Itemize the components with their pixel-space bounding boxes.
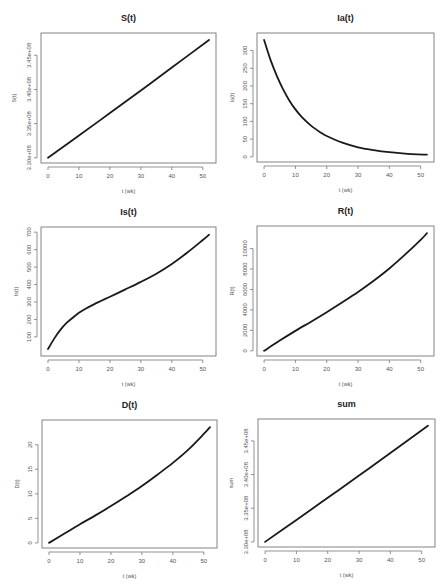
x-tick-label: 0 (46, 366, 50, 372)
x-tick-label: 50 (417, 366, 424, 372)
chart-title: Ia(t) (337, 13, 354, 23)
y-tick-label: 200 (242, 80, 248, 91)
y-axis: 3.30e+083.35e+083.40e+083.45e+08 (243, 428, 254, 555)
x-tick-label: 50 (199, 366, 206, 372)
panel-st: S(t)01020304050t (wk)3.30e+083.35e+083.4… (11, 13, 216, 194)
x-tick-label: 20 (108, 558, 115, 564)
data-line (264, 40, 427, 155)
x-tick-label: 10 (292, 366, 299, 372)
plot-frame (41, 227, 216, 356)
y-axis-label: sum (228, 477, 234, 488)
y-tick-label: 15 (27, 465, 33, 472)
x-tick-label: 10 (76, 366, 83, 372)
y-tick-label: 3.45e+08 (243, 428, 249, 454)
y-tick-label: 20 (27, 441, 33, 448)
x-tick-label: 30 (356, 557, 363, 563)
y-tick-label: 10000 (242, 240, 248, 257)
y-axis: 050100150200250300 (242, 45, 253, 159)
y-tick-label: 700 (26, 226, 32, 237)
x-tick-label: 10 (293, 557, 300, 563)
x-tick-label: 40 (170, 558, 177, 564)
x-axis: 01020304050 (262, 360, 424, 372)
figure-canvas: S(t)01020304050t (wk)3.30e+083.35e+083.4… (0, 0, 447, 587)
y-axis: 3.30e+083.35e+083.40e+083.45e+08 (26, 42, 37, 170)
x-tick-label: 10 (292, 172, 299, 178)
y-axis-label: S(t) (11, 93, 17, 102)
y-axis: 0200040006000800010000 (242, 240, 253, 353)
panel-rt: R(t)01020304050t (wk)0200040006000800010… (229, 206, 434, 387)
x-tick-label: 50 (199, 173, 206, 179)
x-tick-label: 0 (47, 558, 51, 564)
y-tick-label: 3.30e+08 (243, 529, 249, 555)
chart-title: R(t) (338, 206, 354, 216)
y-tick-label: 300 (26, 296, 32, 307)
x-tick-label: 20 (107, 366, 114, 372)
x-tick-label: 10 (77, 558, 84, 564)
x-tick-label: 30 (355, 172, 362, 178)
y-axis-label: Is(t) (13, 287, 19, 297)
y-tick-label: 200 (26, 314, 32, 325)
x-tick-label: 40 (387, 557, 394, 563)
panel-sum: sum01020304050t (wk)3.30e+083.35e+083.40… (228, 399, 435, 578)
y-tick-label: 4000 (242, 303, 248, 317)
x-axis-label: t (wk) (123, 573, 137, 579)
x-tick-label: 40 (169, 173, 176, 179)
y-tick-label: 50 (242, 135, 248, 142)
y-tick-label: 3.45e+08 (26, 42, 32, 68)
y-tick-label: 400 (26, 279, 32, 290)
x-tick-label: 30 (139, 558, 146, 564)
x-tick-label: 20 (323, 366, 330, 372)
y-tick-label: 5 (27, 516, 33, 520)
y-tick-label: 2000 (242, 323, 248, 337)
x-axis-label: t (wk) (340, 572, 354, 578)
y-tick-label: 500 (26, 261, 32, 272)
x-tick-label: 30 (355, 366, 362, 372)
y-tick-label: 0 (242, 348, 248, 352)
x-tick-label: 50 (418, 557, 425, 563)
data-line (49, 427, 210, 543)
x-axis: 01020304050 (46, 360, 206, 372)
y-tick-label: 300 (242, 45, 248, 56)
y-tick-label: 100 (242, 116, 248, 127)
y-tick-label: 3.35e+08 (26, 110, 32, 136)
x-tick-label: 30 (138, 366, 145, 372)
y-tick-label: 6000 (242, 282, 248, 296)
x-tick-label: 30 (138, 173, 145, 179)
y-axis-label: R(t) (229, 286, 235, 295)
y-axis: 100200300400500600700 (26, 226, 37, 341)
plot-frame (42, 420, 217, 548)
x-tick-label: 0 (46, 173, 50, 179)
x-tick-label: 20 (107, 173, 114, 179)
x-axis-label: t (wk) (339, 187, 353, 193)
panel-ist: Is(t)01020304050t (wk)100200300400500600… (13, 207, 216, 387)
plot-frame (257, 33, 434, 162)
panel-dt: D(t)01020304050t (wk)05101520D(t) (14, 400, 217, 579)
data-line (48, 235, 209, 349)
x-axis-label: t (wk) (339, 381, 353, 387)
x-tick-label: 20 (324, 557, 331, 563)
y-tick-label: 150 (242, 98, 248, 109)
chart-title: D(t) (122, 400, 138, 410)
x-tick-label: 50 (200, 558, 207, 564)
plot-frame (257, 226, 434, 356)
x-axis: 01020304050 (263, 551, 425, 563)
y-tick-label: 3.40e+08 (243, 461, 249, 487)
y-tick-label: 3.30e+08 (26, 145, 32, 171)
y-axis-label: Ia(t) (229, 92, 235, 102)
x-tick-label: 40 (169, 366, 176, 372)
x-tick-label: 10 (76, 173, 83, 179)
data-line (265, 426, 428, 542)
y-tick-label: 10 (27, 490, 33, 497)
chart-title: sum (337, 399, 356, 409)
x-tick-label: 50 (417, 172, 424, 178)
x-tick-label: 40 (386, 172, 393, 178)
y-axis-label: D(t) (14, 479, 20, 488)
x-tick-label: 0 (263, 557, 267, 563)
x-axis: 01020304050 (46, 167, 206, 179)
data-line (48, 40, 209, 158)
y-tick-label: 8000 (242, 262, 248, 276)
y-tick-label: 3.40e+08 (26, 76, 32, 102)
y-tick-label: 0 (242, 155, 248, 159)
y-tick-label: 600 (26, 244, 32, 255)
x-tick-label: 20 (323, 172, 330, 178)
